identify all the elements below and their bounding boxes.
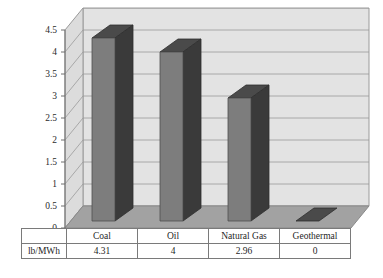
y-tick-label: 2 bbox=[52, 135, 57, 145]
bar-chart-3d: 0 0.5 1 1.5 2 2.5 3 3.5 4 4.5 bbox=[0, 0, 383, 240]
table-corner-cell bbox=[22, 229, 67, 244]
table-header-natural-gas: Natural Gas bbox=[209, 229, 280, 244]
y-tick-label: 1 bbox=[52, 179, 57, 189]
table-value-geothermal: 0 bbox=[280, 244, 351, 259]
y-tick-label: 4.5 bbox=[45, 25, 57, 35]
bar-oil[interactable] bbox=[160, 39, 201, 221]
chart-canvas: 0 0.5 1 1.5 2 2.5 3 3.5 4 4.5 bbox=[0, 0, 383, 240]
y-axis-labels: 0 0.5 1 1.5 2 2.5 3 3.5 4 4.5 bbox=[45, 25, 57, 233]
table-value-oil: 4 bbox=[138, 244, 209, 259]
chart-figure: 0 0.5 1 1.5 2 2.5 3 3.5 4 4.5 bbox=[0, 0, 383, 278]
table-value-natural-gas: 2.96 bbox=[209, 244, 280, 259]
table-row-values: lb/MWh 4.31 4 2.96 0 bbox=[22, 244, 351, 259]
table-value-coal: 4.31 bbox=[67, 244, 138, 259]
bar-natural-gas[interactable] bbox=[228, 85, 269, 221]
bar-natural-gas-front bbox=[228, 98, 251, 221]
data-table: Coal Oil Natural Gas Geothermal lb/MWh 4… bbox=[21, 228, 351, 259]
bar-natural-gas-side bbox=[251, 85, 269, 221]
data-table-wrapper: Coal Oil Natural Gas Geothermal lb/MWh 4… bbox=[21, 228, 348, 259]
y-tick-label: 4 bbox=[52, 47, 57, 57]
table-header-coal: Coal bbox=[67, 229, 138, 244]
table-header-oil: Oil bbox=[138, 229, 209, 244]
y-tick-label: 1.5 bbox=[45, 157, 57, 167]
bar-coal-front bbox=[92, 38, 115, 221]
y-tick-label: 3 bbox=[52, 91, 57, 101]
table-row-headers: Coal Oil Natural Gas Geothermal bbox=[22, 229, 351, 244]
y-tick-marks bbox=[61, 30, 65, 228]
bar-oil-front bbox=[160, 52, 183, 221]
y-tick-label: 2.5 bbox=[45, 113, 57, 123]
bar-coal[interactable] bbox=[92, 25, 133, 221]
table-row-label-lb-mwh: lb/MWh bbox=[22, 244, 67, 259]
bar-coal-side bbox=[115, 25, 133, 221]
table-header-geothermal: Geothermal bbox=[280, 229, 351, 244]
bar-oil-side bbox=[183, 39, 201, 221]
y-tick-label: 3.5 bbox=[45, 69, 57, 79]
y-tick-label: 0.5 bbox=[45, 201, 57, 211]
